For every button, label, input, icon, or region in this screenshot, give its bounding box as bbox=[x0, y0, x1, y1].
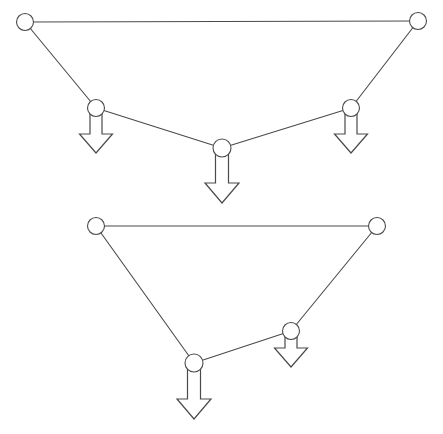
lower-joint-right bbox=[283, 323, 300, 340]
upper-joint-top-right bbox=[410, 13, 427, 30]
upper-joint-left bbox=[88, 100, 105, 117]
lower-joint-bottom bbox=[185, 354, 203, 372]
lower-member-right-diagonal bbox=[291, 226, 377, 331]
upper-load-center-arrow-icon bbox=[205, 152, 239, 203]
lower-member-left-diagonal bbox=[96, 226, 194, 363]
upper-truss-members bbox=[25, 21, 418, 148]
lower-member-bottom-chord bbox=[194, 331, 291, 363]
upper-load-left-arrow-icon bbox=[80, 112, 113, 153]
truss-figure bbox=[0, 0, 443, 434]
lower-joint-top-right bbox=[369, 218, 386, 235]
upper-truss-loads bbox=[80, 112, 368, 203]
structures-layer bbox=[17, 13, 427, 420]
upper-member-right-diagonal bbox=[351, 21, 418, 108]
upper-truss bbox=[17, 13, 427, 204]
lower-truss bbox=[88, 218, 386, 420]
upper-load-right-arrow-icon bbox=[335, 112, 368, 153]
lower-truss-members bbox=[96, 226, 377, 363]
upper-joint-right bbox=[343, 100, 360, 117]
truss-diagram-svg bbox=[0, 0, 443, 434]
lower-load-center-arrow-icon bbox=[177, 368, 211, 419]
upper-member-top-chord bbox=[25, 21, 418, 22]
lower-joint-top-left bbox=[88, 218, 105, 235]
upper-member-left-bottom bbox=[96, 108, 222, 148]
upper-member-left-diagonal bbox=[25, 22, 96, 108]
upper-joint-center bbox=[213, 139, 231, 157]
upper-joint-top-left bbox=[17, 14, 34, 31]
upper-member-right-bottom bbox=[222, 108, 351, 148]
